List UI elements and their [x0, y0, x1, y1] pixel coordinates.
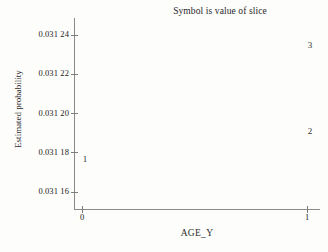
y-axis-line — [74, 18, 75, 210]
y-axis-tick — [71, 192, 78, 193]
y-axis-tick — [71, 113, 78, 114]
x-axis-tick-label: 0 — [70, 212, 94, 222]
x-axis-tick-label: 1 — [295, 212, 319, 222]
y-axis-tick — [71, 35, 78, 36]
data-point-symbol: 3 — [303, 40, 317, 50]
y-axis-tick — [71, 152, 78, 153]
x-axis-label: AGE_Y — [74, 228, 320, 238]
scatter-plot-figure: Symbol is value of slice Estimated proba… — [0, 0, 328, 252]
x-axis-line — [74, 209, 320, 210]
y-axis-tick-label: 0.031 20 — [38, 108, 69, 118]
y-axis-label: Estimated probability — [13, 39, 23, 179]
y-axis-tick-label: 0.031 16 — [38, 186, 69, 196]
y-axis-tick-label: 0.031 18 — [38, 147, 69, 157]
y-axis-tick-label: 0.031 24 — [38, 29, 69, 39]
y-axis-tick-label: 0.031 22 — [38, 68, 69, 78]
y-axis-tick — [71, 74, 78, 75]
data-point-symbol: 2 — [303, 126, 317, 136]
data-point-symbol: 1 — [78, 154, 92, 164]
chart-title: Symbol is value of slice — [120, 6, 320, 16]
